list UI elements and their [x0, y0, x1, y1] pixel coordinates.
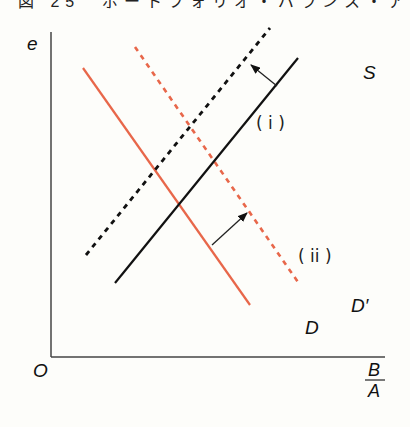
origin-label: O — [33, 360, 48, 381]
x-axis-label-numerator: B — [368, 360, 380, 380]
demand-curve-d-prime — [135, 47, 300, 285]
x-axis-label-denominator: A — [367, 381, 380, 401]
y-axis-label: e — [27, 33, 38, 54]
diagram-canvas: e O B A S D′ D ( i ) ( ii ) — [0, 0, 410, 427]
shift-label-ii: ( ii ) — [298, 246, 332, 266]
curve-label-s: S — [363, 62, 376, 83]
shift-label-i: ( i ) — [256, 113, 285, 133]
shift-arrow-ii — [212, 213, 247, 245]
axes — [51, 32, 385, 357]
curve-label-d-prime: D′ — [351, 295, 370, 316]
curve-label-d: D — [305, 317, 319, 338]
demand-curve-d — [83, 68, 250, 305]
shift-arrow-i — [251, 65, 277, 86]
supply-curve-s — [115, 58, 298, 283]
supply-curve-s-prime — [86, 28, 270, 255]
